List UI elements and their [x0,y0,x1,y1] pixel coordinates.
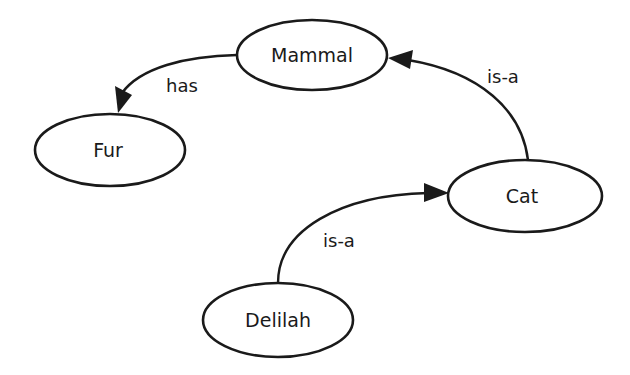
node-label-fur: Fur [93,139,123,161]
edge-label-is-a-upper: is-a [487,66,519,87]
node-fur: Fur [35,114,185,186]
edge-mammal-has-fur: has [115,55,237,113]
edge-delilah-isa-cat: is-a [278,183,449,283]
node-label-cat: Cat [506,185,538,207]
edge-label-has: has [166,75,198,96]
arrowhead-icon [424,183,449,202]
node-mammal: Mammal [237,20,387,90]
node-delilah: Delilah [203,283,353,357]
arrowhead-icon [388,50,413,69]
edge-cat-isa-mammal: is-a [388,50,528,160]
node-label-mammal: Mammal [271,44,353,66]
node-cat: Cat [448,160,602,232]
semantic-network-diagram: Fur --> has Mammal --> is-a Cat --> is-a… [0,0,630,375]
node-label-delilah: Delilah [245,309,311,331]
edge-label-is-a-lower: is-a [323,230,355,251]
